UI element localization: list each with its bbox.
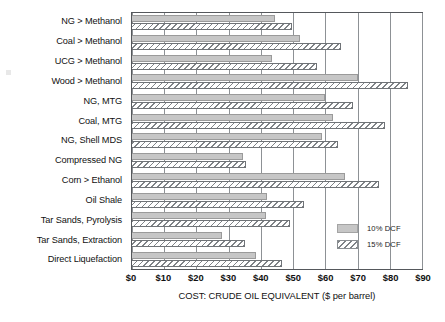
bar-15pct-dcf — [132, 260, 282, 267]
bar-10pct-dcf — [132, 153, 243, 160]
bar-group — [132, 13, 422, 33]
bar-group — [132, 111, 422, 131]
legend-label: 15% DCF — [367, 240, 401, 249]
bar-10pct-dcf — [132, 94, 325, 101]
bar-10pct-dcf — [132, 35, 300, 42]
bar-15pct-dcf — [132, 43, 341, 50]
bar-group — [132, 171, 422, 191]
x-axis-tick-label: $40 — [253, 272, 269, 283]
bar-15pct-dcf — [132, 181, 379, 188]
y-axis-label: Direct Liquefaction — [0, 250, 127, 270]
y-axis-category-labels: NG > Methanol Coal > Methanol UCG > Meth… — [0, 12, 127, 270]
y-axis-label: UCG > Methanol — [0, 52, 127, 72]
bar-10pct-dcf — [132, 193, 267, 200]
y-axis-label: Compressed NG — [0, 151, 127, 171]
bar-10pct-dcf — [132, 114, 333, 121]
x-axis-tick-label: $70 — [350, 272, 366, 283]
x-axis-ticks: $0$10$20$30$40$50$60$70$80$90 — [131, 272, 423, 286]
legend-label: 10% DCF — [367, 224, 401, 233]
gridline — [422, 13, 423, 269]
bar-15pct-dcf — [132, 161, 246, 168]
legend-entry-15pct: 15% DCF — [337, 240, 421, 249]
legend-swatch-solid-icon — [337, 224, 358, 233]
y-axis-label: Wood > Methanol — [0, 72, 127, 92]
x-axis-tick-label: $10 — [156, 272, 172, 283]
y-axis-label: Tar Sands, Extraction — [0, 230, 127, 250]
y-axis-label: NG, Shell MDS — [0, 131, 127, 151]
y-axis-label: Oil Shale — [0, 191, 127, 211]
bar-10pct-dcf — [132, 173, 345, 180]
bar-10pct-dcf — [132, 74, 358, 81]
bar-group — [132, 131, 422, 151]
legend-swatch-hatch-icon — [337, 240, 358, 249]
bar-10pct-dcf — [132, 15, 275, 22]
x-axis-tick-label: $30 — [221, 272, 237, 283]
bar-group — [132, 92, 422, 112]
y-axis-label: NG, MTG — [0, 91, 127, 111]
y-axis-label: Coal > Methanol — [0, 32, 127, 52]
bar-10pct-dcf — [132, 252, 256, 259]
x-axis-tick-label: $80 — [383, 272, 399, 283]
bar-10pct-dcf — [132, 232, 222, 239]
bar-group — [132, 33, 422, 53]
bar-group — [132, 72, 422, 92]
bar-15pct-dcf — [132, 141, 338, 148]
y-axis-label: Corn > Ethanol — [0, 171, 127, 191]
bar-15pct-dcf — [132, 102, 353, 109]
bar-15pct-dcf — [132, 220, 290, 227]
legend: 10% DCF 15% DCF — [337, 224, 421, 256]
x-axis-tick-label: $20 — [188, 272, 204, 283]
legend-entry-10pct: 10% DCF — [337, 224, 421, 233]
y-axis-label: Tar Sands, Pyrolysis — [0, 210, 127, 230]
bar-15pct-dcf — [132, 122, 385, 129]
x-axis-tick-label: $60 — [318, 272, 334, 283]
y-axis-label: Coal, MTG — [0, 111, 127, 131]
bar-10pct-dcf — [132, 55, 272, 62]
y-axis-label: NG > Methanol — [0, 12, 127, 32]
bar-15pct-dcf — [132, 240, 245, 247]
x-axis-tick-label: $0 — [126, 272, 136, 283]
x-axis-tick-label: $90 — [415, 272, 431, 283]
bar-10pct-dcf — [132, 212, 266, 219]
bar-10pct-dcf — [132, 133, 322, 140]
bar-group — [132, 52, 422, 72]
x-axis-title: COST: CRUDE OIL EQUIVALENT ($ per barrel… — [131, 290, 423, 301]
bar-group — [132, 190, 422, 210]
bar-chart: NG > Methanol Coal > Methanol UCG > Meth… — [0, 0, 445, 322]
bar-15pct-dcf — [132, 201, 304, 208]
bar-15pct-dcf — [132, 23, 292, 30]
bar-15pct-dcf — [132, 82, 408, 89]
x-axis-tick-label: $50 — [285, 272, 301, 283]
bar-15pct-dcf — [132, 63, 317, 70]
bar-group — [132, 151, 422, 171]
